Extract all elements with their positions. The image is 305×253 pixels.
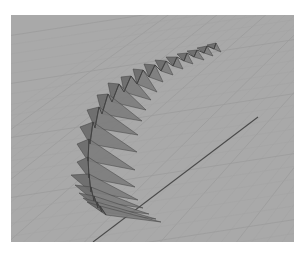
grid-line <box>11 231 294 242</box>
grid-line <box>11 15 294 242</box>
grid-line <box>179 15 294 242</box>
grid-line <box>275 15 294 242</box>
3d-scene-canvas[interactable] <box>11 15 294 242</box>
grid-line <box>243 15 294 242</box>
grid-line <box>11 15 258 242</box>
grid-line <box>11 177 294 225</box>
grid-line <box>195 15 294 242</box>
grid-line <box>11 15 294 242</box>
grid-line <box>11 103 294 151</box>
grid-line <box>11 164 294 212</box>
perspective-viewport[interactable] <box>11 15 294 242</box>
grid-line <box>259 15 294 242</box>
construction-grid <box>11 15 294 242</box>
grid-line <box>11 15 294 242</box>
grid-line <box>11 15 294 242</box>
grid-line <box>11 15 293 242</box>
grid-line <box>35 15 294 242</box>
grid-line <box>19 15 294 242</box>
